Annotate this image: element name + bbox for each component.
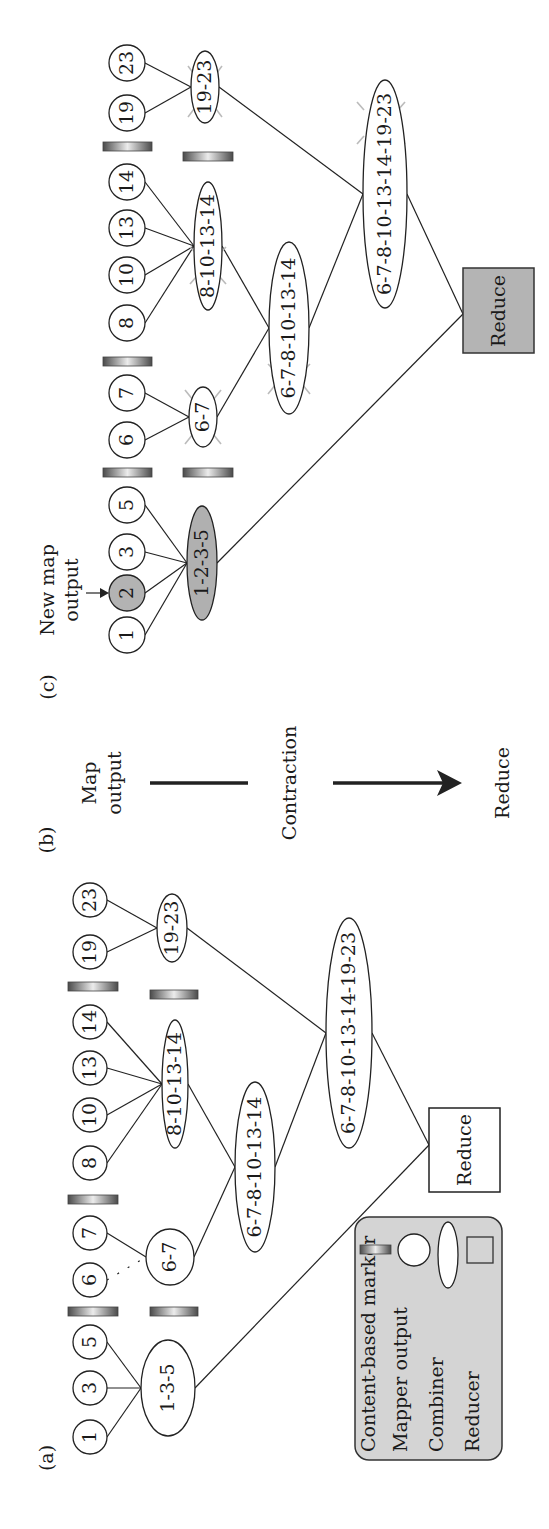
- map-output-label-line2: output: [103, 751, 125, 815]
- legend-ellipse-icon: [438, 1222, 458, 1288]
- panel-a-reducer: Reduce: [429, 1108, 500, 1192]
- svg-text:3: 3: [115, 546, 137, 558]
- content-marker-icon: [150, 1307, 198, 1316]
- combiner-node: 19-23: [157, 894, 187, 962]
- svg-text:Reduce: Reduce: [487, 275, 509, 347]
- panel-c-mapper-outputs: 1 2 3 5 6 7 8 10 13 14 19 23: [109, 45, 145, 653]
- combiner-node-updated: 1-2-3-5: [187, 506, 217, 620]
- content-marker-icon: [68, 1307, 118, 1316]
- map-output-label-line1: Map: [78, 762, 100, 805]
- content-marker-icon: [103, 468, 152, 477]
- svg-text:10: 10: [78, 1103, 100, 1127]
- mapper-output-node: 19: [109, 95, 145, 131]
- svg-text:13: 13: [115, 216, 137, 240]
- svg-text:3: 3: [78, 1382, 100, 1394]
- mapper-output-node: 13: [73, 1051, 107, 1085]
- legend-marker-icon: [360, 1245, 391, 1254]
- content-marker-icon: [103, 142, 152, 151]
- mapper-output-node: 5: [109, 487, 145, 523]
- mapper-output-node: 19: [73, 935, 107, 969]
- figure-canvas: (a): [0, 0, 549, 1529]
- mapper-output-node: 8: [109, 305, 145, 341]
- mapper-output-node: 23: [73, 883, 107, 917]
- svg-text:5: 5: [115, 499, 137, 511]
- svg-text:Reduce: Reduce: [453, 1114, 475, 1186]
- mapper-output-node: 1: [73, 1420, 107, 1454]
- panel-a-combiners: 1-3-5 6-7 8-10-13-14 19-23 6-7-8-10-13-1…: [141, 894, 372, 1436]
- combiner-node: 19-23: [191, 51, 219, 123]
- mapper-output-node: 13: [109, 210, 145, 246]
- svg-text:1-3-5: 1-3-5: [156, 1363, 178, 1412]
- content-marker-icon: [103, 357, 152, 366]
- pointer-arrowhead-icon: [100, 588, 109, 598]
- svg-text:6-7-8-10-13-14-19-23: 6-7-8-10-13-14-19-23: [373, 93, 395, 295]
- combiner-node: 6-7-8-10-13-14-19-23: [326, 918, 372, 1148]
- svg-text:6-7: 6-7: [158, 1242, 180, 1273]
- mapper-output-node: 10: [109, 257, 145, 293]
- combiner-node: 6-7-8-10-13-14: [269, 242, 309, 414]
- mapper-output-node: 14: [73, 1005, 107, 1039]
- svg-text:6-7-8-10-13-14: 6-7-8-10-13-14: [243, 1097, 265, 1238]
- diagram-svg: (a): [0, 0, 549, 1529]
- legend-circle-icon: [398, 1234, 430, 1266]
- svg-text:6: 6: [115, 434, 137, 446]
- svg-text:5: 5: [78, 1336, 100, 1348]
- mapper-output-node: 1: [109, 617, 145, 653]
- contraction-label: Contraction: [278, 726, 300, 840]
- svg-text:6-7-8-10-13-14-19-23: 6-7-8-10-13-14-19-23: [337, 932, 359, 1134]
- content-marker-icon: [68, 1195, 118, 1204]
- svg-text:19-23: 19-23: [160, 901, 182, 956]
- content-marker-icon: [68, 982, 118, 991]
- content-marker-icon: [183, 468, 233, 477]
- svg-text:10: 10: [115, 263, 137, 287]
- svg-text:7: 7: [115, 387, 137, 399]
- legend-label-marker: Content-based marker: [357, 1235, 379, 1452]
- legend-label-mapper: Mapper output: [389, 1307, 411, 1452]
- panel-b-label: (b): [35, 827, 57, 854]
- svg-text:6-7-8-10-13-14: 6-7-8-10-13-14: [277, 258, 299, 399]
- svg-text:6-7: 6-7: [191, 402, 213, 433]
- mapper-output-node: 7: [73, 1216, 107, 1250]
- combiner-node: 6-7: [189, 387, 217, 447]
- combiner-node: 6-7-8-10-13-14: [235, 1082, 275, 1252]
- new-mapper-output-node: 2: [109, 575, 145, 611]
- mapper-output-node: 3: [109, 534, 145, 570]
- panel-c-combiners: 1-2-3-5 6-7 8-10-13-14 19-23 6-7-8-10-13…: [187, 51, 407, 620]
- svg-text:1: 1: [78, 1431, 100, 1443]
- combiner-node: 6-7-8-10-13-14-19-23: [363, 80, 407, 308]
- reduce-label: Reduce: [491, 747, 513, 819]
- panel-c-label: (c): [36, 674, 58, 699]
- mapper-output-node: 14: [109, 164, 145, 200]
- content-marker-icon: [183, 152, 233, 161]
- combiner-node: 8-10-13-14: [194, 182, 222, 310]
- svg-text:7: 7: [78, 1227, 100, 1239]
- svg-text:2: 2: [115, 587, 137, 599]
- mapper-output-node: 5: [73, 1325, 107, 1359]
- svg-text:8: 8: [115, 317, 137, 329]
- svg-text:13: 13: [78, 1056, 100, 1080]
- svg-text:1: 1: [115, 629, 137, 641]
- combiner-node: 1-3-5: [141, 1340, 195, 1436]
- svg-text:1-2-3-5: 1-2-3-5: [190, 529, 212, 597]
- mapper-output-node: 8: [73, 1146, 107, 1180]
- svg-text:19: 19: [115, 101, 137, 125]
- panel-b: (b) Map output Contraction Reduce: [35, 726, 513, 854]
- svg-text:19-23: 19-23: [193, 60, 215, 115]
- content-marker-icon: [150, 990, 198, 999]
- panel-c-reducer: Reduce: [463, 268, 534, 353]
- mapper-output-node: 6: [109, 422, 145, 458]
- panel-c: (c) New map output: [36, 45, 534, 700]
- combiner-node: 8-10-13-14: [162, 1020, 188, 1148]
- svg-text:14: 14: [115, 170, 137, 194]
- svg-text:8-10-13-14: 8-10-13-14: [196, 194, 218, 298]
- combiner-node: 6-7: [146, 1229, 194, 1285]
- svg-text:8: 8: [78, 1157, 100, 1169]
- panel-a-mapper-outputs: 1 3 5 6 7 8 10 13 14 19 23: [73, 883, 107, 1454]
- legend: Content-based marker Mapper output Combi…: [355, 1217, 502, 1460]
- svg-text:8-10-13-14: 8-10-13-14: [163, 1032, 185, 1136]
- svg-text:6: 6: [78, 1274, 100, 1286]
- svg-text:23: 23: [78, 888, 100, 912]
- mapper-output-node: 23: [109, 45, 145, 81]
- svg-text:19: 19: [78, 940, 100, 964]
- mapper-output-node: 10: [73, 1098, 107, 1132]
